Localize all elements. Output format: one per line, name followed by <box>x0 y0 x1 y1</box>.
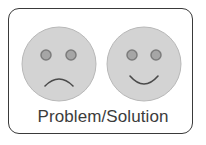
right-eye <box>66 50 76 60</box>
left-eye <box>41 50 51 60</box>
sad-face-icon <box>22 27 96 101</box>
caption-label: Problem/Solution <box>0 107 206 127</box>
left-eye <box>127 50 137 60</box>
happy-face-icon <box>107 27 181 101</box>
right-eye <box>151 50 161 60</box>
